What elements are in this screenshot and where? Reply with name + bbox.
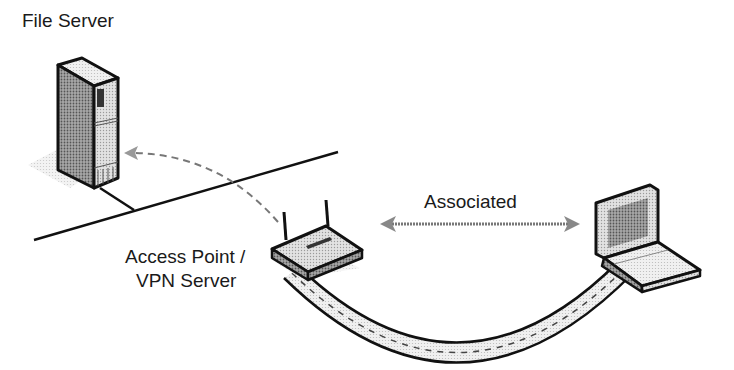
vpn-path-arrow <box>124 146 278 222</box>
file-server-label: File Server <box>22 10 114 32</box>
associated-label: Associated <box>424 191 517 213</box>
access-point-label-line2: VPN Server <box>136 270 236 292</box>
file-server-icon <box>28 58 118 188</box>
association-arrow <box>380 216 580 232</box>
access-point-icon <box>272 200 362 280</box>
access-point-label-line1: Access Point / <box>125 246 245 268</box>
network-diagram <box>0 0 734 370</box>
vpn-tunnel <box>284 262 634 363</box>
